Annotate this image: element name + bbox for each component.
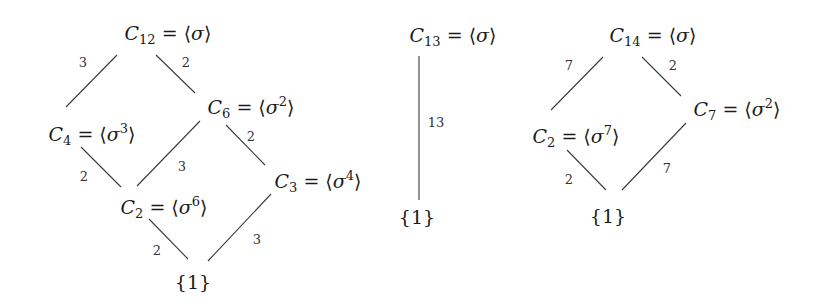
edge-C12-C4: [66, 55, 117, 107]
node-trivial: {1}: [175, 273, 211, 292]
node-C2: C2 = ⟨σ6⟩: [121, 195, 208, 220]
node-C4: C4 = ⟨σ3⟩: [49, 122, 136, 147]
edge-C6-C3: [226, 125, 265, 165]
edge-index-label: 3: [178, 160, 186, 173]
node-trivial: {1}: [399, 208, 435, 227]
node-trivial: {1}: [590, 207, 626, 226]
subgroup-lattice-figure: 3223223C12 = ⟨σ⟩C6 = ⟨σ2⟩C4 = ⟨σ3⟩C3 = ⟨…: [0, 0, 827, 308]
edge-C3-trivial: [208, 194, 271, 261]
node-C12: C12 = ⟨σ⟩: [125, 24, 212, 46]
node-C2: C2 = ⟨σ7⟩: [533, 124, 620, 149]
edge-index-label: 2: [669, 59, 677, 72]
edge-index-label: 2: [80, 170, 88, 183]
node-C6: C6 = ⟨σ2⟩: [208, 95, 295, 120]
node-C13: C13 = ⟨σ⟩: [410, 26, 497, 48]
edge-C6-C2: [137, 121, 200, 186]
edge-index-label: 7: [565, 59, 573, 72]
edge-index-label: 2: [182, 56, 190, 69]
edge-index-label: 3: [253, 233, 261, 246]
node-C7: C7 = ⟨σ2⟩: [694, 97, 781, 122]
node-C14: C14 = ⟨σ⟩: [610, 26, 697, 48]
edge-C14-C2: [551, 57, 603, 110]
edge-index-label: 7: [663, 162, 671, 175]
edge-index-label: 3: [79, 56, 87, 69]
edge-index-label: 2: [247, 130, 255, 143]
node-C3: C3 = ⟨σ4⟩: [275, 169, 362, 194]
edge-C7-trivial: [622, 123, 686, 190]
edge-index-label: 2: [153, 244, 161, 257]
edge-index-label: 2: [565, 173, 573, 186]
edge-index-label: 13: [428, 116, 445, 129]
